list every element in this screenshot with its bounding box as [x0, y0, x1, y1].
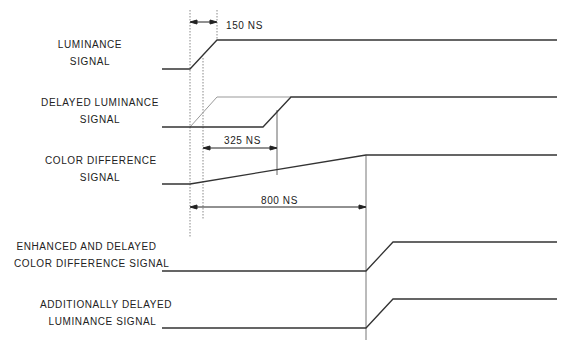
label-luminance: LUMINANCE SIGNAL [40, 36, 140, 70]
label-luminance-line1: LUMINANCE [40, 36, 140, 53]
dim-325ns-label: 325 NS [224, 135, 261, 146]
label-delayed-luminance-line2: SIGNAL [40, 111, 160, 128]
waveform-color-difference [162, 155, 557, 184]
label-additional-line2: LUMINANCE SIGNAL [40, 313, 165, 330]
dim-800ns-label: 800 NS [261, 195, 298, 206]
label-delayed-luminance: DELAYED LUMINANCE SIGNAL [40, 94, 160, 128]
waveform-luminance [162, 40, 557, 69]
label-delayed-luminance-line1: DELAYED LUMINANCE [40, 94, 160, 111]
label-enhanced-line1: ENHANCED AND DELAYED [14, 238, 159, 255]
waveform-enhanced-color-difference [162, 242, 557, 271]
waveform-delayed-luminance [162, 97, 557, 127]
label-enhanced-line2: COLOR DIFFERENCE SIGNAL [14, 255, 159, 272]
label-enhanced-delayed-color: ENHANCED AND DELAYED COLOR DIFFERENCE SI… [14, 238, 159, 272]
label-color-difference-line1: COLOR DIFFERENCE [45, 152, 155, 169]
waveform-additionally-delayed-luminance [162, 299, 557, 328]
dim-150ns-label: 150 NS [226, 20, 263, 31]
label-color-difference-line2: SIGNAL [45, 169, 155, 186]
label-color-difference: COLOR DIFFERENCE SIGNAL [45, 152, 155, 186]
dim-150ns-arrow [190, 20, 217, 24]
label-luminance-line2: SIGNAL [40, 53, 140, 70]
label-additionally-delayed-luminance: ADDITIONALLY DELAYED LUMINANCE SIGNAL [40, 296, 165, 330]
label-additional-line1: ADDITIONALLY DELAYED [40, 296, 165, 313]
dim-325ns-arrow [203, 146, 277, 150]
waveform-luminance-ghost [190, 97, 291, 127]
